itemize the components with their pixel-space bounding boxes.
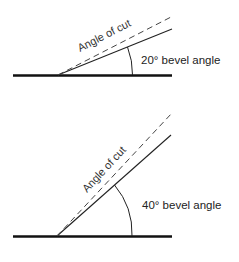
bevel-angle-arc	[115, 185, 133, 236]
bevel-angle-label: 40° bevel angle	[142, 199, 221, 211]
bevel-angle-arc	[128, 47, 133, 75]
diagram-20-degree: Angle of cut 20° bevel angle	[13, 16, 220, 76]
bevel-angle-diagram: Angle of cut 20° bevel angle Angle of cu…	[0, 0, 239, 262]
bevel-angle-label: 20° bevel angle	[141, 54, 220, 66]
angle-of-cut-line	[57, 113, 172, 236]
angle-of-cut-label: Angle of cut	[80, 144, 128, 195]
diagram-40-degree: Angle of cut 40° bevel angle	[13, 113, 221, 237]
